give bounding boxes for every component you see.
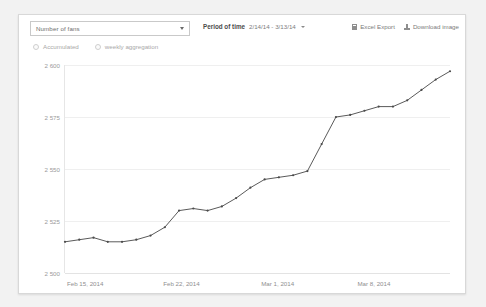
- data-point[interactable]: [321, 143, 323, 145]
- metric-select[interactable]: Number of fans: [30, 21, 190, 36]
- data-point[interactable]: [178, 210, 180, 212]
- plot-area: [64, 65, 450, 273]
- data-point[interactable]: [249, 187, 251, 189]
- chevron-down-icon: [301, 26, 305, 28]
- data-point[interactable]: [206, 210, 208, 212]
- fans-line-chart: 2 5002 5252 5502 5752 600 Feb 15, 2014Fe…: [19, 59, 467, 295]
- y-axis-tick-label: 2 575: [45, 114, 60, 121]
- chart-toolbar: Number of fans Period of time 2/14/14 - …: [19, 15, 467, 41]
- radio-icon: [95, 44, 101, 50]
- aggregation-options: Accumulated weekly aggregation: [33, 43, 158, 50]
- series-number-of-fans: [65, 65, 450, 273]
- data-point[interactable]: [292, 174, 294, 176]
- option-weekly-aggregation-label: weekly aggregation: [105, 43, 158, 50]
- radio-icon: [33, 44, 39, 50]
- export-actions: Excel Export Download image: [352, 23, 459, 30]
- option-accumulated[interactable]: Accumulated: [33, 43, 79, 50]
- data-point[interactable]: [278, 176, 280, 178]
- series-line: [65, 71, 450, 242]
- period-label: Period of time: [203, 23, 245, 30]
- data-point[interactable]: [135, 239, 137, 241]
- data-point[interactable]: [420, 89, 422, 91]
- y-axis-labels: 2 5002 5252 5502 5752 600: [19, 59, 64, 273]
- spreadsheet-icon: [352, 24, 357, 30]
- data-point[interactable]: [64, 241, 66, 243]
- excel-export-label: Excel Export: [360, 23, 395, 30]
- download-image-label: Download image: [413, 23, 459, 30]
- data-point[interactable]: [121, 241, 123, 243]
- x-axis-tick-label: Feb 15, 2014: [67, 280, 103, 287]
- period-of-time-control[interactable]: Period of time 2/14/14 - 3/13/14: [203, 23, 305, 30]
- data-point[interactable]: [164, 226, 166, 228]
- option-weekly-aggregation[interactable]: weekly aggregation: [95, 43, 158, 50]
- x-axis-tick-label: Feb 22, 2014: [163, 280, 199, 287]
- y-axis-tick-label: 2 600: [45, 62, 60, 69]
- x-axis-tick-label: Mar 8, 2014: [357, 280, 390, 287]
- data-point[interactable]: [92, 237, 94, 239]
- data-point[interactable]: [335, 116, 337, 118]
- data-point[interactable]: [306, 170, 308, 172]
- x-axis-tick-label: Mar 1, 2014: [261, 280, 294, 287]
- excel-export-button[interactable]: Excel Export: [352, 23, 395, 30]
- data-point[interactable]: [78, 239, 80, 241]
- data-point[interactable]: [406, 99, 408, 101]
- chevron-down-icon: [180, 27, 184, 30]
- data-point[interactable]: [192, 207, 194, 209]
- data-point[interactable]: [363, 110, 365, 112]
- data-point[interactable]: [107, 241, 109, 243]
- y-axis-tick-label: 2 525: [45, 218, 60, 225]
- data-point[interactable]: [435, 78, 437, 80]
- data-point[interactable]: [235, 197, 237, 199]
- gridline: [65, 273, 450, 274]
- data-point[interactable]: [149, 234, 151, 236]
- period-value: 2/14/14 - 3/13/14: [249, 23, 296, 30]
- download-image-button[interactable]: Download image: [404, 23, 459, 30]
- data-point[interactable]: [449, 70, 451, 72]
- analytics-card: Number of fans Period of time 2/14/14 - …: [18, 14, 466, 294]
- data-point[interactable]: [378, 106, 380, 108]
- data-point[interactable]: [349, 114, 351, 116]
- y-axis-tick-label: 2 550: [45, 166, 60, 173]
- y-axis-tick-label: 2 500: [45, 270, 60, 277]
- data-point[interactable]: [392, 106, 394, 108]
- data-point[interactable]: [264, 178, 266, 180]
- download-icon: [404, 24, 410, 30]
- metric-select-value: Number of fans: [31, 25, 80, 32]
- data-point[interactable]: [221, 205, 223, 207]
- option-accumulated-label: Accumulated: [43, 43, 79, 50]
